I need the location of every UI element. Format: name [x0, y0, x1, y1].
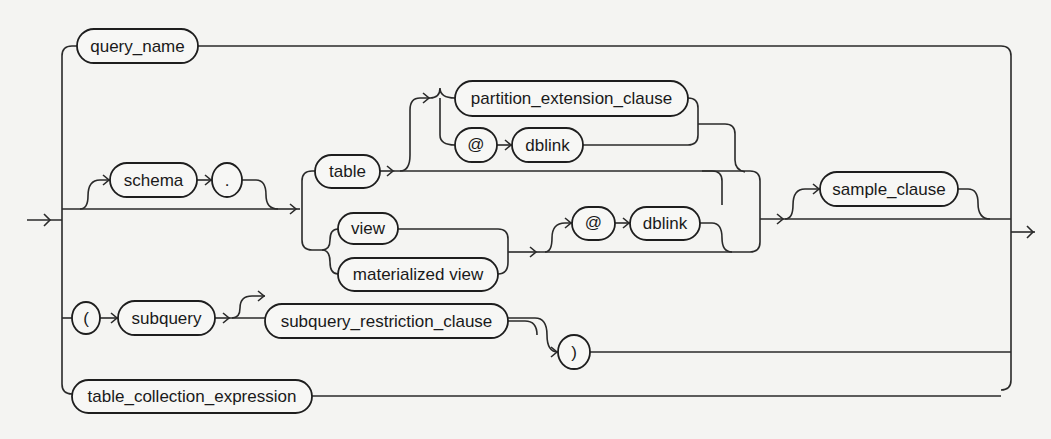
svg-text:table_collection_expression: table_collection_expression	[88, 387, 297, 406]
svg-text:dblink: dblink	[525, 136, 570, 155]
node-subquery: subquery	[118, 301, 215, 335]
svg-text:view: view	[351, 219, 386, 238]
svg-text:(: (	[83, 309, 89, 328]
node-materialized-view: materialized view	[338, 258, 498, 291]
railroad-diagram: query_name schema . table partition_exte…	[0, 0, 1051, 439]
node-at-2: @	[572, 207, 615, 240]
svg-text:@: @	[467, 135, 484, 154]
node-table-collection-expression: table_collection_expression	[72, 380, 312, 413]
node-view: view	[338, 213, 398, 244]
svg-text:table: table	[329, 162, 366, 181]
node-schema: schema	[110, 163, 197, 197]
svg-text:dblink: dblink	[643, 214, 688, 233]
svg-text:sample_clause: sample_clause	[832, 180, 945, 199]
node-sample-clause: sample_clause	[820, 172, 958, 206]
svg-text:.: .	[225, 171, 230, 190]
node-partition-extension-clause: partition_extension_clause	[455, 81, 688, 116]
svg-text:materialized view: materialized view	[353, 265, 484, 284]
node-table: table	[315, 155, 380, 188]
svg-text:query_name: query_name	[90, 37, 185, 56]
node-open-paren: (	[72, 302, 100, 334]
svg-text:@: @	[585, 213, 602, 232]
svg-text:partition_extension_clause: partition_extension_clause	[471, 89, 672, 108]
node-dblink-1: dblink	[512, 128, 583, 162]
svg-text:): )	[571, 343, 577, 362]
node-subquery-restriction-clause: subquery_restriction_clause	[265, 304, 508, 338]
node-at-1: @	[455, 128, 497, 162]
node-dblink-2: dblink	[630, 207, 700, 240]
svg-text:subquery_restriction_clause: subquery_restriction_clause	[281, 312, 493, 331]
svg-text:subquery: subquery	[132, 309, 202, 328]
svg-text:schema: schema	[124, 171, 184, 190]
node-dot: .	[212, 163, 242, 197]
node-close-paren: )	[558, 335, 590, 369]
node-query-name: query_name	[77, 29, 198, 63]
